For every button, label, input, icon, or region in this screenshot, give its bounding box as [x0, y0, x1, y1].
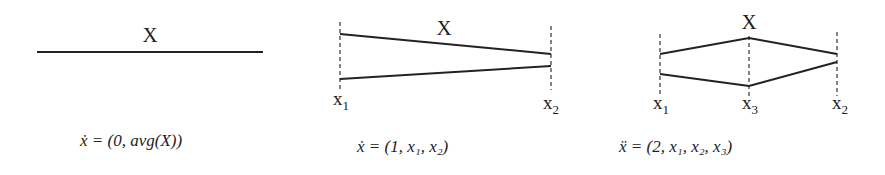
axis-label-x2: x2: [832, 92, 848, 117]
lower-bound-line: [340, 66, 551, 79]
axis-label-x1: x1: [653, 92, 669, 117]
panel-piecewise-label: X: [741, 10, 756, 34]
panel-linear-label: X: [436, 16, 451, 40]
panel-constant: X: [37, 23, 263, 52]
formula-piecewise: ẍ = (2, x₁, x₂, x₃): [619, 137, 732, 157]
panel-piecewise: X x1 x3 x2: [653, 10, 848, 117]
axis-label-x1: x1: [333, 88, 349, 113]
panel-constant-label: X: [142, 23, 157, 47]
formula-linear: ẋ = (1, x₁, x₂): [357, 137, 448, 157]
panel-linear: X x1 x2: [333, 16, 559, 117]
axis-label-x2: x2: [543, 92, 559, 117]
axis-label-x3: x3: [742, 92, 758, 117]
formula-constant: ẋ = (0, avg(X)): [80, 131, 182, 151]
